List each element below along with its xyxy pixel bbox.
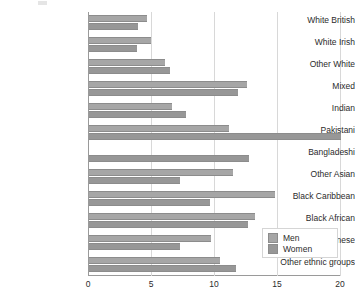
- category-label: Bangladeshi: [271, 148, 355, 157]
- bar-men: [89, 235, 211, 242]
- category-label: Black Caribbean: [271, 192, 355, 201]
- bar-women: [89, 155, 249, 162]
- bar-men: [89, 81, 247, 88]
- bar-men: [89, 125, 229, 132]
- bar-chart: White BritishWhite IrishOther WhiteMixed…: [0, 0, 355, 294]
- bar-women: [89, 67, 170, 74]
- bar-women: [89, 45, 137, 52]
- category-label: Indian: [271, 104, 355, 113]
- x-tick-label-0: 0: [86, 279, 91, 289]
- category-label: Other White: [271, 60, 355, 69]
- bar-women: [89, 23, 138, 30]
- x-tick-label-5: 5: [149, 279, 154, 289]
- bar-women: [89, 243, 180, 250]
- top-crop-artifact: [38, 1, 47, 5]
- category-label: Mixed: [271, 82, 355, 91]
- bar-women: [89, 89, 238, 96]
- legend-entry-men[interactable]: Men: [268, 233, 300, 243]
- chart-legend: MenWomen: [262, 228, 338, 258]
- legend-label: Women: [283, 244, 312, 254]
- category-label: White Irish: [271, 38, 355, 47]
- legend-entry-women[interactable]: Women: [268, 244, 312, 254]
- bar-men: [89, 257, 220, 264]
- bar-men: [89, 37, 151, 44]
- bar-women: [89, 111, 186, 118]
- bar-men: [89, 15, 147, 22]
- legend-label: Men: [283, 233, 300, 243]
- x-tick-label-15: 15: [272, 279, 281, 289]
- legend-swatch-icon: [268, 244, 278, 254]
- bar-women: [89, 177, 180, 184]
- category-label: White British: [271, 16, 355, 25]
- legend-swatch-icon: [268, 233, 278, 243]
- category-label: Other Asian: [271, 170, 355, 179]
- bar-men: [89, 191, 275, 198]
- category-label: Black African: [271, 214, 355, 223]
- bar-women: [89, 221, 248, 228]
- bar-men: [89, 169, 233, 176]
- x-tick-label-20: 20: [335, 279, 344, 289]
- category-label: Other ethnic groups: [271, 258, 355, 267]
- bar-women: [89, 199, 210, 206]
- bar-men: [89, 59, 165, 66]
- bar-men: [89, 213, 255, 220]
- x-tick-label-10: 10: [209, 279, 218, 289]
- category-label: Pakistani: [271, 126, 355, 135]
- bar-men: [89, 103, 172, 110]
- bar-women: [89, 265, 236, 272]
